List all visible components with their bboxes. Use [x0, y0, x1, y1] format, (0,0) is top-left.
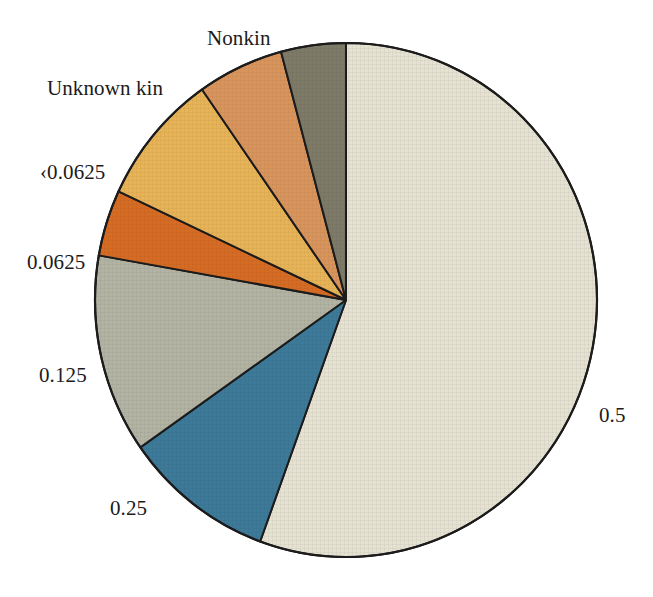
pie-label-lt-00625: ‹0.0625: [40, 162, 105, 183]
pie-chart-figure: Nonkin Unknown kin ‹0.0625 0.0625 0.125 …: [0, 0, 653, 597]
paper-texture-overlay: [95, 43, 597, 557]
pie-label-nonkin: Nonkin: [207, 28, 271, 49]
pie-label-00625: 0.0625: [27, 252, 85, 273]
pie-label-unknown-kin: Unknown kin: [47, 78, 163, 99]
pie-label-025: 0.25: [110, 498, 147, 519]
pie-label-0125: 0.125: [39, 365, 87, 386]
pie-label-05: 0.5: [599, 405, 626, 426]
